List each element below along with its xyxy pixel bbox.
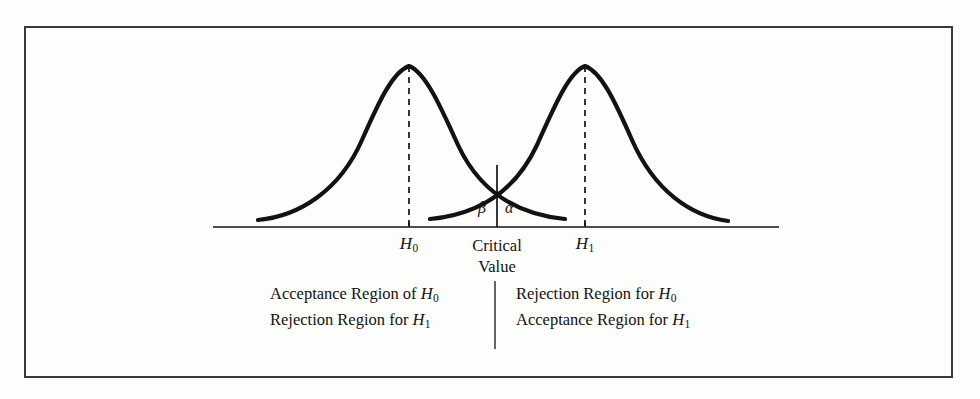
alpha-area-label: α	[505, 199, 513, 217]
axis-label-h1-subscript: 1	[588, 242, 594, 254]
left-region-line-2: Rejection Region for H1	[270, 309, 439, 335]
critical-value-label-line1: Critical	[472, 236, 521, 255]
left-region-line-1: Acceptance Region of H0	[270, 283, 439, 309]
axis-label-h0-subscript: 0	[412, 242, 418, 254]
left-region-caption: Acceptance Region of H0 Rejection Region…	[270, 283, 439, 335]
beta-area-label: β	[478, 199, 486, 217]
axis-label-h0-var: H	[400, 234, 412, 253]
axis-label-h1-var: H	[576, 234, 588, 253]
figure-root: H0 H1 Critical Value β α Acceptance Regi…	[0, 0, 980, 399]
right-region-line-2: Acceptance Region for H1	[516, 309, 690, 335]
right-region-caption: Rejection Region for H0 Acceptance Regio…	[516, 283, 690, 335]
critical-value-label-line2: Value	[478, 257, 516, 276]
right-region-line-1: Rejection Region for H0	[516, 283, 690, 309]
axis-label-h0: H0	[400, 234, 418, 254]
critical-value-label: Critical Value	[472, 235, 521, 277]
axis-label-h1: H1	[576, 234, 594, 254]
figure-border-frame	[24, 26, 953, 378]
